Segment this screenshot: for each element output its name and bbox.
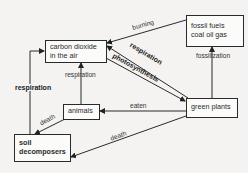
eaten-label: eaten bbox=[130, 102, 147, 109]
respiration-animals-label: respiration bbox=[65, 71, 96, 78]
death-plants-arrow bbox=[71, 116, 186, 157]
green-plants-node: green plants bbox=[186, 98, 238, 118]
fossil-line2: coal oil gas bbox=[191, 31, 239, 40]
soil-line2: decomposers bbox=[19, 148, 66, 157]
soil-decomposers-node: soil decomposers bbox=[14, 134, 71, 162]
animals-label: animals bbox=[68, 107, 95, 116]
fossil-fuels-node: fossil fuels coal oil gas bbox=[186, 15, 244, 47]
co2-node: carbon dioxide in the air bbox=[45, 40, 107, 63]
animals-node: animals bbox=[63, 104, 100, 120]
fossilization-label: fossilization bbox=[196, 52, 230, 59]
plants-label: green plants bbox=[191, 103, 233, 112]
respiration-soil-label: respiration bbox=[15, 84, 51, 91]
co2-line2: in the air bbox=[50, 52, 102, 61]
photosynthesis-arrow bbox=[106, 58, 185, 101]
